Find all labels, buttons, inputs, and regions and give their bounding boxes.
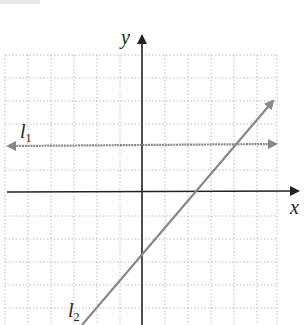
- line-l2-label: l2: [68, 300, 80, 320]
- coordinate-plane-figure: y x l1 l2: [0, 0, 307, 325]
- y-axis-label: y: [121, 27, 130, 47]
- grid: [5, 55, 277, 325]
- line-l1-label-main: l: [20, 120, 26, 142]
- y-axis-label-text: y: [121, 26, 130, 48]
- cropped-heading-fragment: [0, 0, 40, 4]
- x-axis-label-text: x: [290, 196, 299, 218]
- x-axis: [7, 191, 298, 192]
- x-axis-label: x: [290, 197, 299, 217]
- graph-svg: [0, 0, 307, 325]
- line-l1-label: l1: [20, 121, 32, 141]
- line-l2-label-subscript: 2: [74, 310, 80, 324]
- line-l2-label-main: l: [68, 299, 74, 321]
- line-l2: [82, 101, 273, 325]
- line-l1-label-subscript: 1: [26, 131, 32, 145]
